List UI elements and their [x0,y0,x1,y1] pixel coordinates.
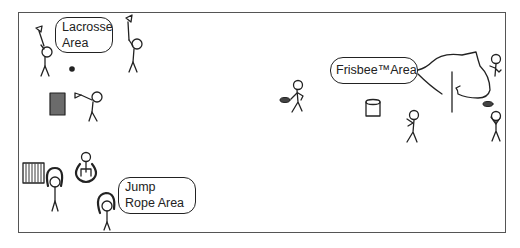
jump-rope-label-line2: Rope Area [125,195,195,211]
lacrosse-area-label: Lacrosse Area [55,17,113,53]
lacrosse-label-line2: Area [62,35,112,51]
goal-icon [50,93,65,115]
lacrosse-player-left-icon [36,26,52,76]
jump-rope-player-middle-icon [76,153,96,183]
ball-icon [69,66,75,72]
lacrosse-player-shooting-icon [75,92,102,121]
jump-rope-player-right-icon [98,193,114,230]
frisbee-area-label: Frisbee™Area [330,57,418,84]
frisbee-player-standing-icon [407,111,419,143]
jump-rope-label-line1: Jump [125,179,195,195]
frisbee-player-tree-icon [490,55,501,77]
lacrosse-player-right-icon [126,15,142,72]
frisbee-icon [280,98,290,103]
jump-rope-area-label: Jump Rope Area [118,177,196,214]
frisbee-icon [483,102,493,107]
frisbee-player-running-icon [280,81,303,113]
trash-can-icon [366,100,380,117]
frisbee-label-text: Frisbee™Area [336,62,417,78]
tree-icon [418,52,490,112]
frisbee-player-catching-icon [491,112,501,142]
jump-rope-player-left-icon [47,168,62,211]
lacrosse-label-line1: Lacrosse [62,19,112,35]
